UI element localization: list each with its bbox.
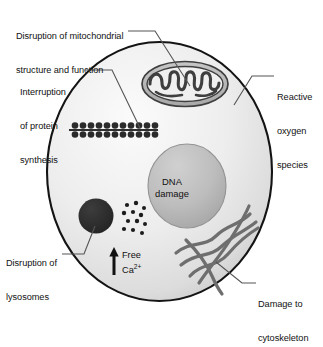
calcium-symbol: Ca [122,265,134,275]
label-cytoskeleton-line-2: cytoskeleton [258,333,308,344]
label-ros-line-2: oxygen [277,126,312,137]
label-protein-line-3: synthesis [20,155,66,166]
label-lysosomes-line-2: lysosomes [6,292,57,303]
ribosome-chain [69,122,158,138]
calcium-charge: 2+ [134,263,142,270]
label-lysosome-disruption: Disruption of lysosomes [6,235,57,326]
label-protein-line-2: of protein [20,121,66,132]
label-mitochondrial-line-1: Disruption of mitochondrial [16,31,123,42]
label-protein-line-1: Interruption [20,87,66,98]
label-free-calcium: Free Ca2+ [122,250,141,276]
label-ros-line-3: species [277,160,312,171]
label-lysosomes-line-1: Disruption of [6,258,57,269]
label-dna-damage: DNA damage [155,176,189,200]
label-dna-line-1: DNA [155,176,189,188]
label-free-calcium-line-1: Free [122,250,141,261]
lysosome [79,199,114,234]
label-dna-line-2: damage [155,188,189,200]
label-cytoskeleton-line-1: Damage to [258,299,308,310]
label-reactive-oxygen-species: Reactive oxygen species [277,69,312,194]
label-ros-line-1: Reactive [277,92,312,103]
mitochondrion [142,62,228,107]
label-free-calcium-line-2: Ca2+ [122,261,141,276]
label-protein-synthesis: Interruption of protein synthesis [20,64,66,189]
label-cytoskeleton-damage: Damage to cytoskeleton [258,276,308,347]
